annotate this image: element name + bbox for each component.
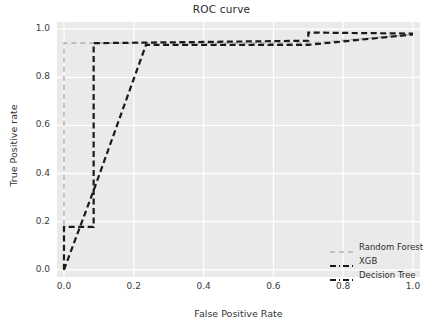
legend-item[interactable]: XGB	[330, 254, 440, 268]
x-tick-label: 0.6	[258, 281, 288, 291]
x-tick-label: 0.0	[49, 281, 79, 291]
y-tick-label: 0.6	[20, 119, 50, 129]
x-tick-label: 0.4	[189, 281, 219, 291]
page-title: ROC curve	[0, 3, 443, 15]
y-tick-label: 0.0	[20, 264, 50, 274]
plot-area	[57, 22, 420, 277]
legend-label: Random Forest	[359, 242, 423, 252]
series-layer	[57, 22, 420, 277]
chart-legend: Random ForestXGBDecision Tree	[330, 240, 440, 282]
y-tick-label: 0.4	[20, 168, 50, 178]
legend-item[interactable]: Random Forest	[330, 240, 440, 254]
legend-swatch-icon	[330, 242, 354, 252]
legend-label: Decision Tree	[359, 270, 416, 280]
x-axis-title: False Positive Rate	[57, 308, 420, 319]
legend-item[interactable]: Decision Tree	[330, 268, 440, 282]
legend-swatch-icon	[330, 256, 354, 266]
y-axis-title: True Positive rate	[8, 86, 19, 206]
y-tick-label: 0.8	[20, 71, 50, 81]
series-line	[64, 35, 413, 270]
legend-label: XGB	[359, 256, 377, 266]
series-line	[64, 35, 413, 270]
x-tick-label: 1.0	[398, 281, 428, 291]
x-tick-label: 0.2	[119, 281, 149, 291]
y-tick-label: 1.0	[20, 23, 50, 33]
roc-curve-figure: ROC curve 0.00.20.40.60.81.0 0.00.20.40.…	[0, 0, 443, 330]
y-tick-label: 0.2	[20, 216, 50, 226]
series-line	[64, 33, 413, 270]
legend-swatch-icon	[330, 270, 354, 280]
